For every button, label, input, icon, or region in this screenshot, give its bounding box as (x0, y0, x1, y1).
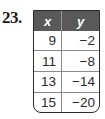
problem-number: 23. (2, 8, 22, 28)
xy-table: x y 9 −2 11 −8 13 −14 15 −20 (33, 10, 100, 113)
cell-x: 15 (34, 92, 62, 112)
table-row: 15 −20 (34, 92, 99, 112)
cell-y: −20 (62, 92, 100, 112)
cell-x: 11 (34, 51, 62, 72)
cell-x: 9 (34, 31, 62, 51)
header-y: y (62, 11, 100, 31)
table-header-row: x y (34, 11, 99, 31)
table-row: 9 −2 (34, 31, 99, 51)
cell-y: −14 (62, 71, 100, 92)
cell-y: −2 (62, 31, 100, 51)
table-row: 11 −8 (34, 51, 99, 72)
cell-x: 13 (34, 71, 62, 92)
header-x: x (34, 11, 62, 31)
table-row: 13 −14 (34, 71, 99, 92)
xy-table-grid: x y 9 −2 11 −8 13 −14 15 −20 (34, 11, 99, 112)
cell-y: −8 (62, 51, 100, 72)
